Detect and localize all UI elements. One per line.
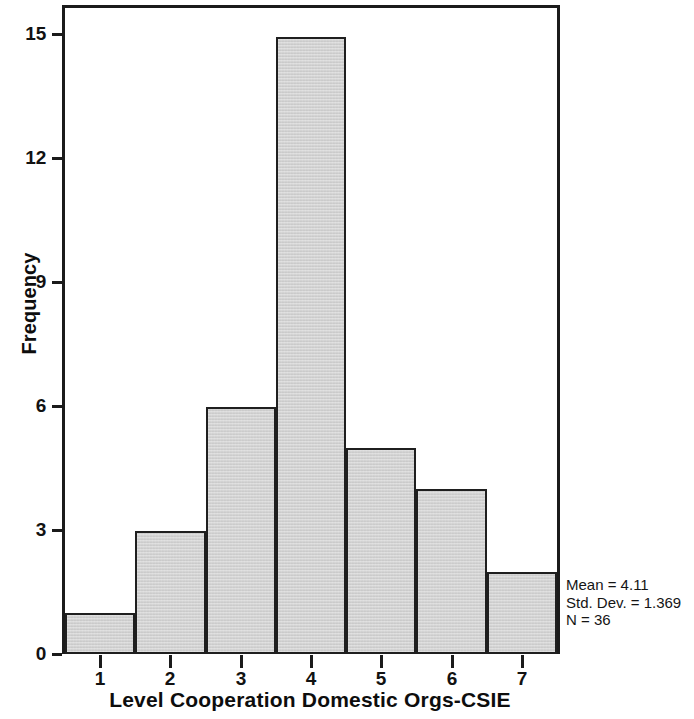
x-axis-tick-mark (451, 655, 454, 668)
y-axis-tick-label: 12 (2, 147, 46, 169)
histogram-bar (487, 572, 557, 654)
x-axis-tick-label: 1 (80, 668, 120, 690)
y-axis-tick-label: 15 (2, 23, 46, 45)
histogram-bar (276, 37, 346, 654)
histogram-bar (416, 489, 486, 654)
x-axis-tick-mark (99, 655, 102, 668)
y-axis-tick-mark (52, 653, 62, 656)
x-axis-tick-mark (169, 655, 172, 668)
y-axis-tick-mark (52, 529, 62, 532)
y-axis-tick-label: 3 (2, 519, 46, 541)
histogram-bar (346, 448, 416, 654)
x-axis-tick-label: 3 (221, 668, 261, 690)
x-axis-tick-label: 2 (150, 668, 190, 690)
x-axis-tick-mark (240, 655, 243, 668)
x-axis-tick-label: 5 (361, 668, 401, 690)
y-axis-tick-mark (52, 281, 62, 284)
x-axis-tick-mark (521, 655, 524, 668)
x-axis-title: Level Cooperation Domestic Orgs-CSIE (0, 688, 620, 712)
histogram-bar (135, 531, 205, 654)
sample-size-label: N = 36 (566, 611, 692, 629)
mean-label: Mean = 4.11 (566, 576, 692, 594)
y-axis-tick-mark (52, 157, 62, 160)
x-axis-tick-mark (310, 655, 313, 668)
x-axis-tick-label: 4 (291, 668, 331, 690)
statistics-annotation: Mean = 4.11 Std. Dev. = 1.369 N = 36 (566, 576, 692, 629)
x-axis-tick-label: 7 (502, 668, 542, 690)
y-axis-tick-label: 6 (2, 395, 46, 417)
histogram-figure: 0 3 6 9 12 15 Frequency 1 2 3 4 5 6 7 Le… (0, 0, 694, 719)
bars-layer (65, 8, 557, 654)
histogram-bar (65, 613, 135, 654)
y-axis-tick-mark (52, 33, 62, 36)
std-dev-label: Std. Dev. = 1.369 (566, 594, 692, 612)
y-axis-tick-label: 0 (2, 643, 46, 665)
histogram-bar (206, 407, 276, 654)
x-axis-tick-mark (380, 655, 383, 668)
y-axis-title: Frequency (18, 229, 41, 379)
y-axis-tick-mark (52, 405, 62, 408)
x-axis-tick-label: 6 (432, 668, 472, 690)
